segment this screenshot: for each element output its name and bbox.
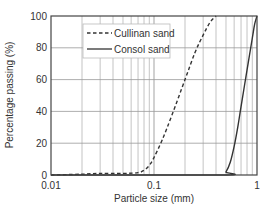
y-tick-label: 0 xyxy=(41,170,47,181)
x-tick-label: 0.01 xyxy=(41,180,61,191)
y-axis-label: Percentage passing (%) xyxy=(4,42,15,149)
y-tick-label: 80 xyxy=(36,42,48,53)
legend-label-consol: Consol sand xyxy=(114,44,170,55)
x-axis-label: Particle size (mm) xyxy=(114,193,194,204)
y-tick-labels: 020406080100 xyxy=(30,11,47,181)
y-tick-label: 40 xyxy=(36,106,48,117)
legend-label-cullinan: Cullinan sand xyxy=(114,28,175,39)
x-tick-labels: 0.010.11 xyxy=(41,180,260,191)
y-tick-label: 100 xyxy=(30,11,47,22)
legend: Cullinan sand Consol sand xyxy=(83,24,175,58)
x-tick-label: 0.1 xyxy=(147,180,161,191)
x-tick-label: 1 xyxy=(254,180,260,191)
particle-size-chart: 020406080100 0.010.11 Particle size (mm)… xyxy=(0,0,271,212)
y-tick-label: 20 xyxy=(36,138,48,149)
y-tick-label: 60 xyxy=(36,74,48,85)
